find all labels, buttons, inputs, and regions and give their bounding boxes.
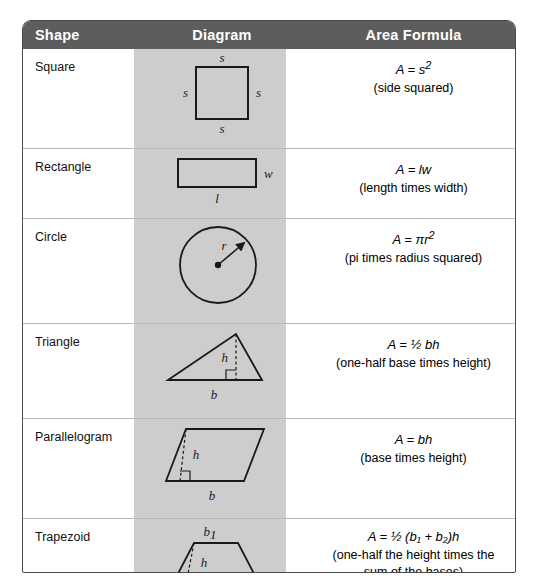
trapezoid-label-height: h — [201, 555, 208, 570]
formula-description-rectangle: (length times width) — [298, 180, 516, 196]
square-label-bottom: s — [219, 121, 224, 136]
circle-icon: r — [152, 219, 292, 312]
page-root: Shape Diagram Area Formula Square — [0, 0, 533, 587]
trapezoid-icon: b1 h b2 — [152, 519, 292, 573]
rectangle-label-length: l — [215, 191, 219, 206]
square-label-top: s — [219, 50, 224, 65]
shape-name-cell: Triangle — [23, 324, 146, 419]
column-header-diagram: Diagram — [146, 21, 298, 49]
shape-name-cell: Rectangle — [23, 149, 146, 219]
formula-description-trapezoid-line1: (one-half the height times the — [298, 547, 516, 563]
table-body: Square s s s s — [23, 49, 516, 573]
formula-cell-square: A = s2 (side squared) — [298, 49, 516, 149]
table-row: Square s s s s — [23, 49, 516, 149]
table-row: Rectangle w l A = lw — [23, 149, 516, 219]
formula-cell-parallelogram: A = bh (base times height) — [298, 419, 516, 519]
shape-name-cell: Square — [23, 49, 146, 149]
parallelogram-icon: h b — [152, 419, 292, 507]
diagram-cell-parallelogram: h b — [146, 419, 298, 519]
diagram-cell-circle: r — [146, 219, 298, 324]
table-row: Parallelogram h b — [23, 419, 516, 519]
trapezoid-b1-sub: 1 — [210, 527, 217, 542]
diagram-cell-triangle: h b — [146, 324, 298, 419]
rectangle-label-width: w — [264, 166, 273, 181]
triangle-label-base: b — [211, 387, 218, 402]
square-label-left: s — [183, 85, 188, 100]
shape-label-square: Square — [23, 49, 146, 74]
formula-description-square: (side squared) — [298, 80, 516, 96]
shape-name-cell: Trapezoid — [23, 519, 146, 574]
formula-cell-trapezoid: A = ½ (b₁ + b₂)h (one-half the height ti… — [298, 519, 516, 574]
formula-rectangle: A = lw — [298, 158, 516, 179]
rectangle-icon: w l — [152, 149, 292, 207]
table-row: Trapezoid b1 h b2 — [23, 519, 516, 574]
triangle-icon: h b — [152, 324, 292, 406]
diagram-cell-square: s s s s — [146, 49, 298, 149]
formula-cell-circle: A = πr2 (pi times radius squared) — [298, 219, 516, 324]
shape-label-triangle: Triangle — [23, 324, 146, 349]
diagram-cell-rectangle: w l — [146, 149, 298, 219]
shape-label-rectangle: Rectangle — [23, 149, 146, 174]
formula-text-square: A = s — [396, 62, 426, 77]
formula-parallelogram: A = bh — [298, 428, 516, 449]
formula-description-circle: (pi times radius squared) — [298, 250, 516, 266]
formula-trapezoid: A = ½ (b₁ + b₂)h — [298, 528, 516, 546]
column-header-area-formula: Area Formula — [298, 21, 516, 49]
triangle-label-height: h — [222, 350, 229, 365]
formula-exponent-square: 2 — [425, 59, 431, 71]
square-icon: s s s s — [152, 49, 292, 137]
formula-description-triangle: (one-half base times height) — [298, 355, 516, 371]
shape-name-cell: Circle — [23, 219, 146, 324]
shape-label-trapezoid: Trapezoid — [23, 519, 146, 544]
shape-label-parallelogram: Parallelogram — [23, 419, 146, 444]
formula-description-trapezoid-line2: sum of the bases) — [298, 564, 516, 573]
trapezoid-label-top-base: b1 — [204, 524, 217, 542]
shape-name-cell: Parallelogram — [23, 419, 146, 519]
shapes-table: Shape Diagram Area Formula Square — [23, 21, 516, 573]
table-row: Triangle h b — [23, 324, 516, 419]
formula-square: A = s2 — [298, 58, 516, 79]
parallelogram-label-height: h — [193, 447, 200, 462]
diagram-cell-trapezoid: b1 h b2 — [146, 519, 298, 574]
formula-triangle: A = ½ bh — [298, 333, 516, 354]
area-formula-table: Shape Diagram Area Formula Square — [22, 20, 516, 573]
formula-text-parallelogram: A = bh — [395, 432, 432, 447]
square-label-right: s — [256, 85, 261, 100]
formula-text-circle: A = πr — [392, 232, 428, 247]
table-row: Circle — [23, 219, 516, 324]
formula-description-parallelogram: (base times height) — [298, 450, 516, 466]
formula-cell-rectangle: A = lw (length times width) — [298, 149, 516, 219]
formula-text-rectangle: A = lw — [396, 162, 431, 177]
formula-exponent-circle: 2 — [429, 229, 435, 241]
formula-circle: A = πr2 — [298, 228, 516, 249]
table-header: Shape Diagram Area Formula — [23, 21, 516, 49]
formula-text-triangle: A = ½ bh — [388, 337, 440, 352]
parallelogram-label-base: b — [209, 488, 216, 503]
circle-label-radius: r — [221, 238, 227, 253]
formula-cell-triangle: A = ½ bh (one-half base times height) — [298, 324, 516, 419]
column-header-shape: Shape — [23, 21, 146, 49]
header-row: Shape Diagram Area Formula — [23, 21, 516, 49]
shape-label-circle: Circle — [23, 219, 146, 244]
